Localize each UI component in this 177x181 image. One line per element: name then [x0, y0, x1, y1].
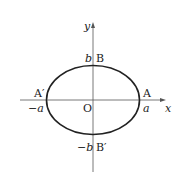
point-a-prime-label: A′: [33, 87, 45, 100]
b-value-label: b: [85, 52, 92, 65]
point-b-label: B: [96, 52, 104, 65]
origin-label: O: [83, 102, 92, 115]
point-a-label: A: [142, 87, 152, 100]
neg-a-value-label: −a: [28, 102, 44, 115]
a-value-label: a: [143, 102, 150, 115]
x-axis-label: x: [165, 102, 172, 115]
ellipse-diagram: x y O b B −b B′ A′ −a A a: [0, 0, 177, 181]
neg-b-value-label: −b: [77, 141, 93, 154]
y-axis-label: y: [83, 20, 91, 33]
point-b-prime-label: B′: [96, 141, 107, 154]
y-axis-arrow-icon: [91, 22, 95, 28]
